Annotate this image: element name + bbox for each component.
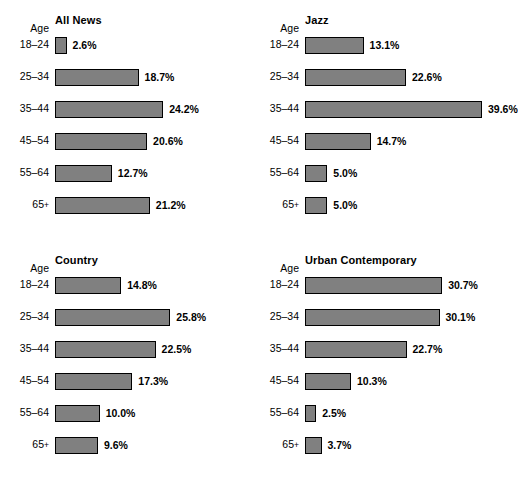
category-label: 55–64 (250, 166, 299, 178)
bar-with-value: 18.7% (55, 68, 174, 86)
category-label: 55–64 (0, 166, 49, 178)
bar (55, 277, 121, 294)
bar-value-label: 24.2% (169, 101, 199, 118)
bar-value-label: 9.6% (104, 437, 128, 454)
category-label: 55–64 (250, 406, 299, 418)
category-label: 25–34 (250, 310, 299, 322)
bar (55, 165, 112, 182)
bar-value-label: 13.1% (370, 37, 400, 54)
bar-value-label: 18.7% (145, 69, 175, 86)
chart-panel-all-news: All News Age 18–242.6%25–3418.7%35–4424.… (0, 0, 250, 240)
bar-with-value: 14.7% (305, 132, 406, 150)
bar-with-value: 30.7% (305, 276, 478, 294)
panel-title: All News (55, 14, 102, 26)
category-label: 65+ (0, 438, 49, 450)
category-label: 18–24 (250, 38, 299, 50)
bar-row: 55–642.5% (250, 404, 500, 436)
bar-value-label: 17.3% (138, 373, 168, 390)
panel-title: Urban Contemporary (305, 254, 417, 266)
bar-row: 65+21.2% (0, 196, 250, 228)
bar-row: 45–5410.3% (250, 372, 500, 404)
bar-row: 18–2414.8% (0, 276, 250, 308)
chart-panel-urban-contemporary: Urban Contemporary Age 18–2430.7%25–3430… (250, 240, 500, 479)
bar-row: 45–5414.7% (250, 132, 500, 164)
bar-value-label: 3.7% (328, 437, 352, 454)
bar-with-value: 22.5% (55, 340, 191, 358)
bar-row: 65+9.6% (0, 436, 250, 468)
bar-rows: 18–242.6%25–3418.7%35–4424.2%45–5420.6%5… (0, 36, 250, 228)
bar (55, 197, 150, 214)
panel-title: Jazz (305, 14, 329, 26)
bar-with-value: 2.5% (305, 404, 346, 422)
bar (305, 37, 364, 54)
bar-value-label: 30.1% (446, 309, 476, 326)
bar-with-value: 17.3% (55, 372, 168, 390)
category-label: 18–24 (0, 278, 49, 290)
bar-row: 35–4422.7% (250, 340, 500, 372)
bar (55, 69, 139, 86)
bar (55, 437, 98, 454)
bar-row: 35–4422.5% (0, 340, 250, 372)
bar-with-value: 2.6% (55, 36, 97, 54)
bar-value-label: 22.6% (412, 69, 442, 86)
bar-row: 35–4439.6% (250, 100, 500, 132)
category-label: 45–54 (0, 134, 49, 146)
bar-row: 18–2413.1% (250, 36, 500, 68)
bar-row: 25–3418.7% (0, 68, 250, 100)
category-label: 45–54 (0, 374, 49, 386)
chart-panel-country: Country Age 18–2414.8%25–3425.8%35–4422.… (0, 240, 250, 479)
bar-with-value: 9.6% (55, 436, 128, 454)
category-label: 65+ (0, 198, 49, 210)
bar-value-label: 20.6% (153, 133, 183, 150)
bar-value-label: 5.0% (333, 165, 357, 182)
bar (55, 309, 170, 326)
bar-rows: 18–2430.7%25–3430.1%35–4422.7%45–5410.3%… (250, 276, 500, 468)
bar-value-label: 22.5% (162, 341, 192, 358)
bar (55, 101, 163, 118)
bar-value-label: 2.6% (73, 37, 97, 54)
bar-value-label: 25.8% (176, 309, 206, 326)
bar-with-value: 22.7% (305, 340, 442, 358)
category-label: 35–44 (0, 342, 49, 354)
bar-row: 35–4424.2% (0, 100, 250, 132)
bar (305, 341, 407, 358)
bar-row: 18–2430.7% (250, 276, 500, 308)
bar-row: 25–3430.1% (250, 308, 500, 340)
bar (305, 277, 442, 294)
category-label: 18–24 (0, 38, 49, 50)
bar (305, 437, 322, 454)
axis-header-age: Age (250, 262, 299, 274)
bar-row: 18–242.6% (0, 36, 250, 68)
category-label: 65+ (250, 198, 299, 210)
bar (305, 309, 440, 326)
panel-title: Country (55, 254, 98, 266)
bar-with-value: 25.8% (55, 308, 206, 326)
bar-with-value: 5.0% (305, 164, 357, 182)
category-label: 18–24 (250, 278, 299, 290)
chart-panel-jazz: Jazz Age 18–2413.1%25–3422.6%35–4439.6%4… (250, 0, 500, 240)
bar-row: 55–6412.7% (0, 164, 250, 196)
category-label: 25–34 (0, 70, 49, 82)
bar-value-label: 14.7% (377, 133, 407, 150)
bar-row: 65+5.0% (250, 196, 500, 228)
bar-row: 65+3.7% (250, 436, 500, 468)
bar (305, 133, 371, 150)
bar (305, 69, 406, 86)
bar-with-value: 24.2% (55, 100, 199, 118)
bar-value-label: 30.7% (448, 277, 478, 294)
bar-with-value: 13.1% (305, 36, 399, 54)
bar (55, 133, 147, 150)
bar (55, 373, 132, 390)
bar-rows: 18–2413.1%25–3422.6%35–4439.6%45–5414.7%… (250, 36, 500, 228)
bar-value-label: 10.0% (106, 405, 136, 422)
bar (305, 165, 327, 182)
bar (55, 37, 67, 54)
bar-with-value: 10.0% (55, 404, 135, 422)
bar-value-label: 39.6% (488, 101, 518, 118)
bar (55, 341, 156, 358)
bar-with-value: 5.0% (305, 196, 357, 214)
category-label: 45–54 (250, 374, 299, 386)
axis-header-age: Age (0, 22, 49, 34)
category-label: 35–44 (0, 102, 49, 114)
